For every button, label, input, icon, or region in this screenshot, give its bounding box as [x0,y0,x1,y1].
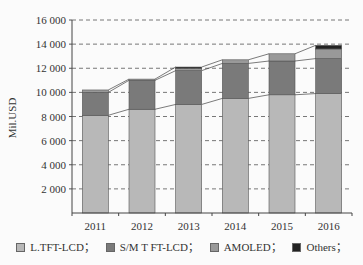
y-axis-tick-labels: 2 0004 0006 0008 00010 00012 00014 00016… [36,14,67,195]
x-tick-label: 2012 [131,220,153,232]
x-tick-label: 2016 [318,220,341,232]
legend-label: S/M T FT-LCD； [120,241,199,253]
bar-segment [129,80,155,109]
legend-label: AMOLED； [224,241,282,253]
bar-segment [316,94,342,213]
bar-segment [176,71,202,105]
y-axis-label: Mil.USD [6,98,18,139]
bars [82,45,341,213]
bar-segment [176,67,202,68]
legend-swatch [210,243,219,252]
y-tick-label: 14 000 [36,38,67,50]
y-tick-label: 4 000 [41,159,66,171]
bar-segment [222,98,248,213]
bar-segment [129,79,155,80]
bar-segment [222,63,248,98]
x-tick-label: 2013 [178,220,201,232]
legend-label: L.TFT-LCD； [30,241,95,253]
y-tick-label: 10 000 [36,86,67,98]
x-tick-label: 2011 [85,220,107,232]
bar-segment [82,90,108,92]
bar-segment [82,115,108,213]
bar-segment [316,49,342,59]
bar-segment [316,59,342,94]
x-axis-tick-labels: 201120122013201420152016 [85,220,341,232]
bar-segment [176,68,202,70]
bar-segment [82,92,108,115]
legend-item-others: Others； [292,238,346,254]
x-tick-label: 2014 [224,220,247,232]
y-tick-label: 6 000 [41,135,66,147]
bar-segment [269,95,295,213]
axes [72,20,352,216]
legend-item-amoled: AMOLED； [210,238,282,254]
legend-item-sm-tft-lcd: S/M T FT-LCD； [106,238,199,254]
legend-label: Others； [306,241,346,253]
gridlines [69,20,352,189]
y-tick-label: 8 000 [41,111,66,123]
legend-swatch [106,243,115,252]
bar-segment [129,109,155,213]
stacked-bar-chart: 2 0004 0006 0008 00010 00012 00014 00016… [0,0,363,235]
bar-segment [269,61,295,95]
legend: L.TFT-LCD； S/M T FT-LCD； AMOLED； Others； [0,238,363,254]
bar-segment [222,60,248,64]
y-tick-label: 12 000 [36,62,67,74]
legend-swatch [292,243,301,252]
legend-swatch [16,243,25,252]
legend-item-l-tft-lcd: L.TFT-LCD； [16,238,95,254]
bar-segment [269,54,295,61]
y-tick-label: 16 000 [36,14,67,26]
x-tick-label: 2015 [271,220,294,232]
bar-segment [176,104,202,213]
bar-segment [316,45,342,49]
y-tick-label: 2 000 [41,183,66,195]
